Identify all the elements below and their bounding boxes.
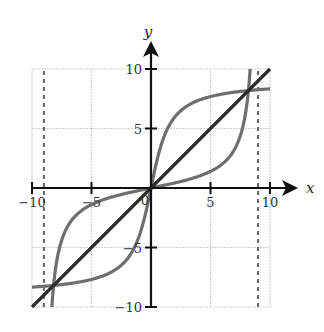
x-tick-label: 10 [262,195,279,210]
origin-label: 0 [141,193,149,208]
x-tick-label: −5 [82,195,101,210]
y-tick-label: 5 [134,122,142,137]
y-tick-label: −10 [115,300,142,315]
x-tick-label: −10 [18,195,45,210]
y-tick-label: 10 [125,62,142,77]
x-tick-label: 5 [206,195,214,210]
y-tick-label: −5 [123,241,142,256]
x-axis-label: x [306,179,315,197]
y-axis-label: y [143,23,153,41]
function-inverse-plot: −10−55100−10−5510xy [0,0,324,332]
